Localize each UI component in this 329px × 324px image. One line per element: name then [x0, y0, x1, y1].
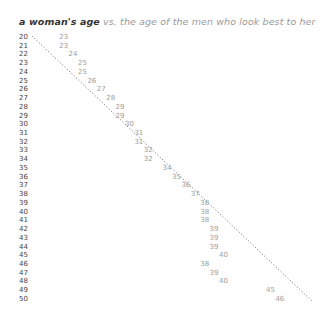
row-label: 26 [19, 85, 28, 93]
row-label: 25 [19, 77, 28, 85]
data-value: 31 [134, 138, 143, 146]
row-label: 38 [19, 190, 28, 198]
data-value: 45 [266, 286, 275, 294]
data-value: 46 [275, 295, 284, 303]
data-value: 39 [210, 243, 219, 251]
row-label: 47 [19, 269, 28, 277]
row-label: 41 [19, 216, 28, 224]
data-value: 38 [200, 216, 209, 224]
data-value: 34 [163, 164, 172, 172]
data-value: 29 [116, 112, 125, 120]
row-label: 29 [19, 112, 28, 120]
row-label: 32 [19, 138, 28, 146]
data-value: 25 [78, 68, 87, 76]
data-value: 40 [219, 277, 228, 285]
row-label: 39 [19, 199, 28, 207]
data-value: 39 [210, 234, 219, 242]
data-value: 30 [125, 120, 134, 128]
row-label: 44 [19, 243, 28, 251]
data-value: 38 [200, 260, 209, 268]
row-label: 24 [19, 68, 28, 76]
data-value: 24 [69, 50, 78, 58]
data-value: 32 [144, 155, 153, 163]
row-label: 48 [19, 277, 28, 285]
data-value: 31 [134, 129, 143, 137]
data-value: 39 [210, 269, 219, 277]
data-value: 38 [200, 199, 209, 207]
data-value: 39 [210, 225, 219, 233]
data-value: 23 [59, 42, 68, 50]
row-label: 23 [19, 59, 28, 67]
data-value: 38 [200, 208, 209, 216]
row-label: 21 [19, 42, 28, 50]
row-label: 36 [19, 173, 28, 181]
row-label: 46 [19, 260, 28, 268]
row-label: 37 [19, 181, 28, 189]
data-value: 35 [172, 173, 181, 181]
row-label: 40 [19, 208, 28, 216]
row-label: 35 [19, 164, 28, 172]
data-value: 32 [144, 146, 153, 154]
row-label: 49 [19, 286, 28, 294]
row-label: 22 [19, 50, 28, 58]
row-label: 43 [19, 234, 28, 242]
row-label: 30 [19, 120, 28, 128]
data-value: 40 [219, 251, 228, 259]
data-value: 28 [106, 94, 115, 102]
row-label: 50 [19, 295, 28, 303]
row-label: 42 [19, 225, 28, 233]
data-value: 29 [116, 103, 125, 111]
row-label: 20 [19, 33, 28, 41]
data-value: 26 [87, 77, 96, 85]
row-label: 27 [19, 94, 28, 102]
row-label: 31 [19, 129, 28, 137]
data-value: 36 [181, 181, 190, 189]
row-label: 45 [19, 251, 28, 259]
data-value: 25 [78, 59, 87, 67]
reference-line [0, 0, 329, 324]
row-label: 34 [19, 155, 28, 163]
chart-area: 2023212322242325242525262627272828292929… [0, 0, 329, 324]
data-value: 37 [191, 190, 200, 198]
data-value: 23 [59, 33, 68, 41]
row-label: 28 [19, 103, 28, 111]
row-label: 33 [19, 146, 28, 154]
data-value: 27 [97, 85, 106, 93]
